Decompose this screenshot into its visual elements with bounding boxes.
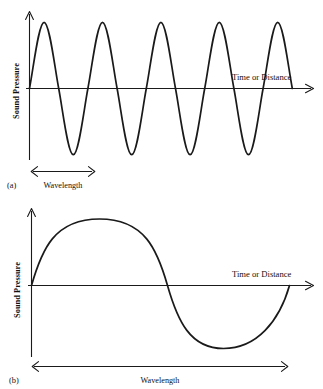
sound-wave-figure: Time or Distance Sound Pressure Waveleng… [0, 0, 323, 389]
panel-a: Time or Distance Sound Pressure Waveleng… [7, 12, 314, 191]
panel-a-y-axis-label: Sound Pressure [12, 63, 21, 119]
panel-a-tag: (a) [7, 181, 17, 190]
panel-a-wavelength-label: Wavelength [44, 181, 83, 190]
panel-b-x-axis-label: Time or Distance [232, 269, 292, 279]
figure-container: Time or Distance Sound Pressure Waveleng… [0, 0, 323, 389]
panel-b-tag: (b) [9, 376, 19, 385]
panel-b-waveform [32, 219, 290, 349]
panel-a-x-axis-label: Time or Distance [232, 72, 292, 82]
panel-b-y-axis-label: Sound Pressure [13, 262, 22, 318]
panel-b: Time or Distance Sound Pressure Waveleng… [9, 209, 314, 386]
panel-b-wavelength-label: Wavelength [141, 376, 180, 385]
